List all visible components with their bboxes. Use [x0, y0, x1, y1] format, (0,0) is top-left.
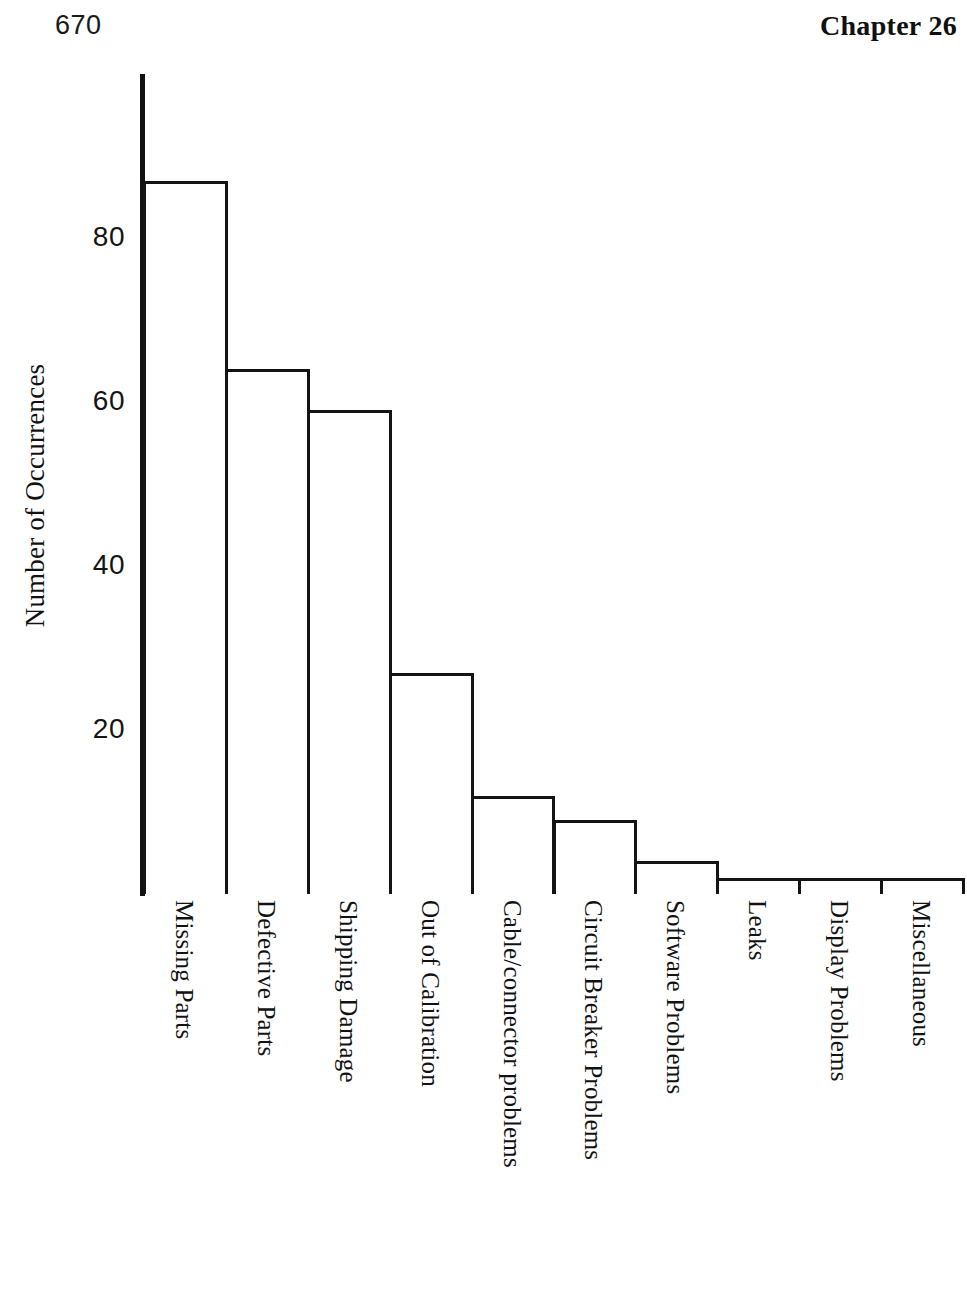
category-label-slot: Circuit Breaker Problems	[553, 900, 635, 1280]
bar-7	[634, 861, 719, 894]
category-label-7: Software Problems	[661, 900, 689, 1094]
bar-3	[307, 410, 392, 894]
bar-10	[880, 878, 965, 894]
category-label-5: Cable/connector problems	[498, 900, 526, 1168]
category-label-1: Missing Parts	[170, 900, 198, 1039]
category-label-slot: Software Problems	[634, 900, 716, 1280]
bar-series	[143, 60, 962, 894]
y-axis-tick-80: 80	[5, 223, 125, 251]
y-axis-tick-40: 40	[5, 551, 125, 579]
y-axis-title: Number of Occurrences	[20, 336, 51, 656]
pareto-chart-page: 670 Chapter 26 Number of Occurrences 204…	[0, 0, 967, 1306]
category-label-slot: Missing Parts	[143, 900, 225, 1280]
bar-2	[225, 369, 310, 894]
category-label-slot: Leaks	[716, 900, 798, 1280]
bar-1	[143, 181, 228, 894]
category-label-slot: Shipping Damage	[307, 900, 389, 1280]
category-label-slot: Display Problems	[798, 900, 880, 1280]
category-label-4: Out of Calibration	[416, 900, 444, 1087]
category-label-slot: Defective Parts	[225, 900, 307, 1280]
category-label-slot: Cable/connector problems	[471, 900, 553, 1280]
bar-chart: Number of Occurrences 20406080 Missing P…	[0, 0, 967, 1306]
bar-6	[553, 820, 638, 894]
bar-5	[471, 796, 556, 894]
bar-8	[716, 878, 801, 894]
category-label-9: Display Problems	[825, 900, 853, 1082]
category-label-10: Miscellaneous	[907, 900, 935, 1047]
x-axis-category-labels: Missing PartsDefective PartsShipping Dam…	[143, 900, 962, 1290]
category-label-8: Leaks	[743, 900, 771, 961]
bar-4	[389, 673, 474, 894]
category-label-6: Circuit Breaker Problems	[579, 900, 607, 1160]
category-label-slot: Out of Calibration	[389, 900, 471, 1280]
category-label-2: Defective Parts	[252, 900, 280, 1056]
y-axis-tick-20: 20	[5, 715, 125, 743]
category-label-3: Shipping Damage	[334, 900, 362, 1083]
category-label-slot: Miscellaneous	[880, 900, 962, 1280]
y-axis-tick-60: 60	[5, 387, 125, 415]
bar-9	[798, 878, 883, 894]
